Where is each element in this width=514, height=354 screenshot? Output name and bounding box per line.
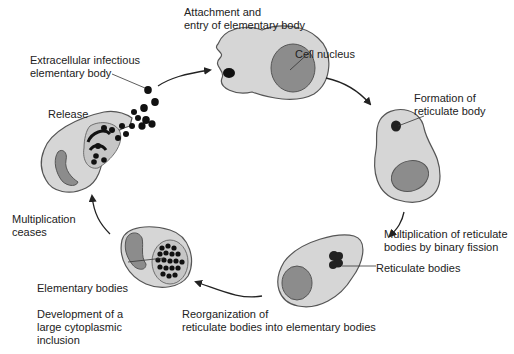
cell-multiplication — [278, 235, 363, 307]
label-reticulate-bodies: Reticulate bodies — [376, 262, 460, 275]
label-multiplication-binary: Multiplication of reticulate bodies by b… — [384, 228, 508, 254]
arrow-to-release — [92, 196, 110, 234]
label-cell-nucleus: Cell nucleus — [295, 48, 355, 61]
arrow-to-formation — [326, 78, 370, 104]
cell-nucleus-3 — [282, 266, 312, 300]
label-development: Development of a large cytoplasmic inclu… — [37, 308, 123, 347]
cell-attachment — [216, 26, 328, 100]
reticulate-body-single — [391, 121, 401, 132]
label-formation: Formation of reticulate body — [414, 92, 486, 118]
label-elementary-bodies: Elementary bodies — [37, 282, 128, 295]
cell-release — [41, 109, 141, 192]
elementary-body-entering — [223, 68, 235, 78]
label-attachment: Attachment and entry of elementary body — [184, 6, 305, 32]
label-multiplication-ceases: Multiplication ceases — [12, 213, 76, 239]
arrow-to-reorganization — [196, 282, 262, 297]
cell-formation — [375, 110, 440, 203]
diagram-canvas: Attachment and entry of elementary body … — [0, 0, 514, 354]
arrow-to-attachment — [158, 70, 210, 86]
label-extracellular: Extracellular infectious elementary body — [30, 54, 140, 80]
label-release: Release — [48, 108, 88, 121]
extracellular-bodies — [138, 86, 158, 130]
reticulate-bodies-cluster — [329, 251, 343, 269]
cell-inclusion — [121, 227, 191, 287]
label-reorganization: Reorganization of reticulate bodies into… — [182, 308, 376, 334]
